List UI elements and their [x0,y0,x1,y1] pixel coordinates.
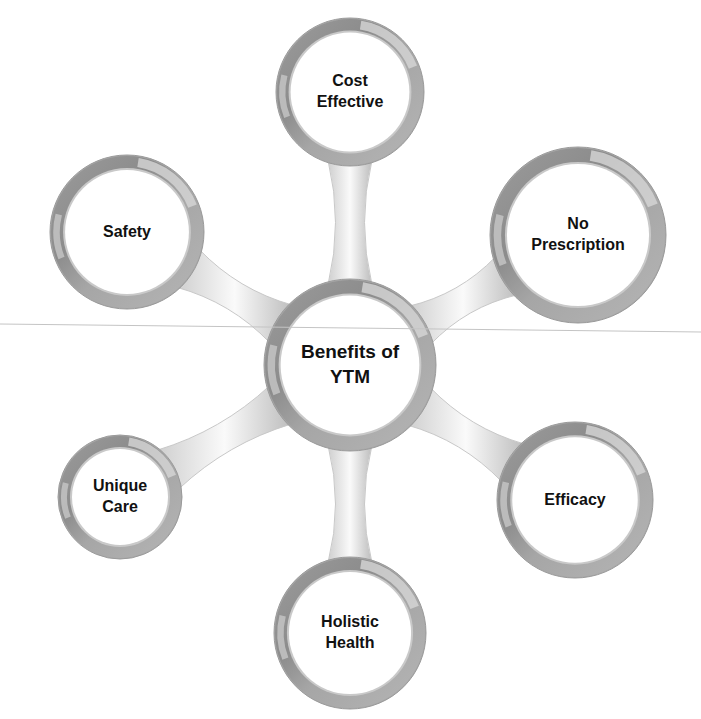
node-label-line: Health [321,633,379,654]
node-label-line: Cost [317,71,384,92]
node-holistic-health: Holistic Health [321,612,379,654]
node-no-prescription: No Prescription [531,214,624,256]
node-label-line: Prescription [531,235,624,256]
node-label-line: No [531,214,624,235]
node-label-line: Holistic [321,612,379,633]
node-label-line: Unique [93,476,147,497]
node-label-line: Effective [317,92,384,113]
center-label-line-2: YTM [301,365,399,390]
node-label-line: Efficacy [544,490,605,511]
connector-holistic-health [328,445,372,563]
center-label-line-1: Benefits of [301,340,399,365]
node-label-line: Safety [103,222,151,243]
node-label-line: Care [93,497,147,518]
node-safety: Safety [103,222,151,243]
center-label: Benefits of YTM [301,340,399,389]
node-efficacy: Efficacy [544,490,605,511]
node-cost-effective: Cost Effective [317,71,384,113]
node-unique-care: Unique Care [93,476,147,518]
connector-cost-effective [328,160,372,285]
